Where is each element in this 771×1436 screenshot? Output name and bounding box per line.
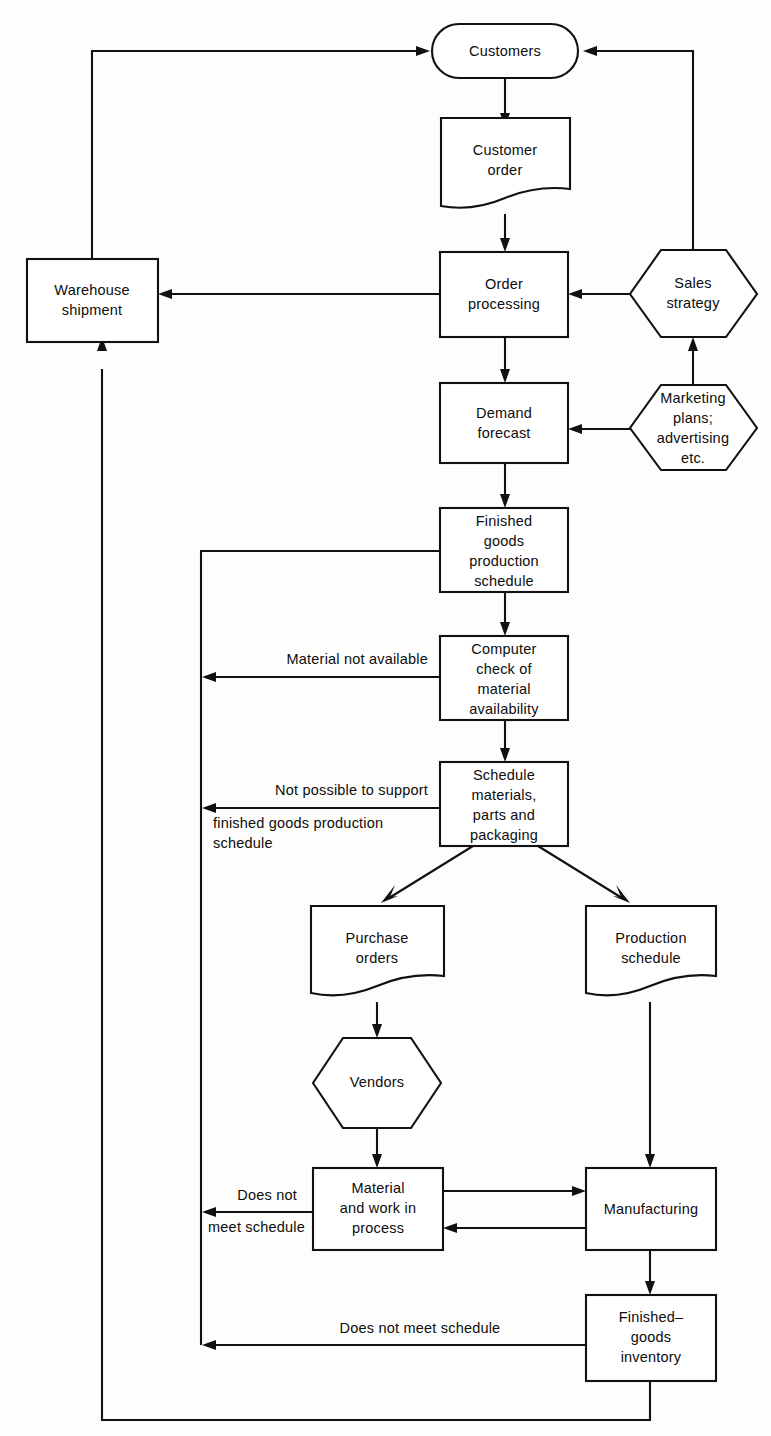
arrow-marketing-to-sales-strategy bbox=[688, 337, 698, 351]
fg-production-schedule-label-2: goods bbox=[484, 533, 525, 549]
edge-label-does-not-line2: meet schedule bbox=[208, 1219, 305, 1235]
fg-production-schedule-label-3: production bbox=[469, 553, 539, 569]
arrow-sales-strategy-to-customers bbox=[583, 46, 597, 56]
arrow-fg-inventory-does-not-meet-schedule bbox=[202, 1340, 216, 1350]
edge-label-not-possible-line1: Not possible to support bbox=[275, 782, 428, 798]
manufacturing-label: Manufacturing bbox=[604, 1201, 699, 1217]
marketing-plans-label-3: advertising bbox=[657, 430, 729, 446]
sales-strategy-label-1: Sales bbox=[674, 275, 711, 291]
edge-label-not-possible-line2: finished goods production bbox=[213, 815, 383, 831]
arrow-not-possible-to-support bbox=[202, 803, 216, 813]
node-finished-goods-production-schedule[interactable]: Finished goods production schedule bbox=[440, 508, 568, 592]
flowchart-svg: Customers Customer order Order processin… bbox=[0, 0, 771, 1436]
sales-strategy-label-2: strategy bbox=[666, 295, 720, 311]
node-computer-check[interactable]: Computer check of material availability bbox=[440, 636, 568, 720]
node-customers[interactable]: Customers bbox=[432, 24, 578, 78]
arrow-manufacturing-to-material-wip bbox=[443, 1223, 457, 1233]
node-material-work-in-process[interactable]: Material and work in process bbox=[313, 1168, 443, 1250]
customer-order-label-2: order bbox=[488, 162, 523, 178]
arrow-warehouse-to-customers bbox=[416, 46, 430, 56]
warehouse-shipment-label-1: Warehouse bbox=[54, 282, 129, 298]
arrow-order-processing-to-demand-forecast bbox=[500, 369, 510, 383]
arrow-customer-order-to-order-processing bbox=[500, 238, 510, 252]
arrow-production-schedule-to-manufacturing bbox=[645, 1154, 655, 1168]
material-wip-label-1: Material bbox=[351, 1180, 404, 1196]
fg-inventory-label-1: Finished– bbox=[619, 1309, 684, 1325]
schedule-materials-label-2: materials, bbox=[472, 787, 537, 803]
edge-schedule-materials-to-purchase-orders bbox=[389, 846, 473, 898]
demand-forecast-shape bbox=[440, 383, 568, 463]
marketing-plans-label-4: etc. bbox=[681, 450, 705, 466]
computer-check-label-2: check of bbox=[476, 661, 532, 677]
computer-check-label-3: material bbox=[477, 681, 530, 697]
arrow-marketing-to-demand-forecast bbox=[568, 424, 582, 434]
production-schedule-label-2: schedule bbox=[621, 950, 681, 966]
edge-label-not-possible-line3: schedule bbox=[213, 835, 273, 851]
purchase-orders-label-2: orders bbox=[356, 950, 398, 966]
marketing-plans-label-2: plans; bbox=[673, 410, 713, 426]
arrow-sales-strategy-to-order-processing bbox=[568, 289, 582, 299]
fg-inventory-label-3: inventory bbox=[621, 1349, 682, 1365]
node-production-schedule[interactable]: Production schedule bbox=[586, 906, 716, 995]
node-schedule-materials[interactable]: Schedule materials, parts and packaging bbox=[440, 762, 568, 846]
purchase-orders-label-1: Purchase bbox=[346, 930, 409, 946]
node-sales-strategy[interactable]: Sales strategy bbox=[630, 250, 757, 337]
demand-forecast-label-2: forecast bbox=[477, 425, 530, 441]
arrow-manufacturing-to-fg-inventory bbox=[645, 1281, 655, 1295]
order-processing-label-2: processing bbox=[468, 296, 540, 312]
material-wip-label-2: and work in bbox=[340, 1200, 416, 1216]
flowchart-canvas: Customers Customer order Order processin… bbox=[0, 0, 771, 1436]
node-marketing-plans[interactable]: Marketing plans; advertising etc. bbox=[630, 385, 757, 470]
node-order-processing[interactable]: Order processing bbox=[440, 252, 568, 337]
fg-production-schedule-label-1: Finished bbox=[476, 513, 532, 529]
schedule-materials-label-1: Schedule bbox=[473, 767, 535, 783]
arrow-computer-check-to-schedule-materials bbox=[500, 748, 510, 762]
edge-label-does-not-line1: Does not bbox=[237, 1187, 297, 1203]
order-processing-shape bbox=[440, 252, 568, 337]
arrow-demand-forecast-to-fg-schedule bbox=[500, 494, 510, 508]
schedule-materials-label-3: parts and bbox=[473, 807, 535, 823]
arrow-order-processing-to-warehouse bbox=[158, 289, 172, 299]
edge-label-does-not-meet-schedule: Does not meet schedule bbox=[340, 1320, 501, 1336]
schedule-materials-label-4: packaging bbox=[470, 827, 538, 843]
warehouse-shipment-label-2: shipment bbox=[62, 302, 122, 318]
node-purchase-orders[interactable]: Purchase orders bbox=[311, 906, 444, 995]
arrow-material-not-available bbox=[202, 672, 216, 682]
customers-label: Customers bbox=[469, 43, 541, 59]
production-schedule-label-1: Production bbox=[615, 930, 686, 946]
node-vendors[interactable]: Vendors bbox=[313, 1038, 441, 1128]
fg-inventory-label-2: goods bbox=[631, 1329, 672, 1345]
node-manufacturing[interactable]: Manufacturing bbox=[586, 1168, 716, 1250]
arrow-fg-schedule-to-computer-check bbox=[500, 622, 510, 636]
node-demand-forecast[interactable]: Demand forecast bbox=[440, 383, 568, 463]
fg-production-schedule-label-4: schedule bbox=[474, 573, 534, 589]
node-finished-goods-inventory[interactable]: Finished– goods inventory bbox=[586, 1295, 716, 1381]
arrow-purchase-orders-to-vendors bbox=[372, 1024, 382, 1038]
marketing-plans-label-1: Marketing bbox=[660, 390, 725, 406]
demand-forecast-label-1: Demand bbox=[476, 405, 532, 421]
order-processing-label-1: Order bbox=[485, 276, 523, 292]
sales-strategy-shape bbox=[630, 250, 757, 337]
computer-check-label-1: Computer bbox=[471, 641, 536, 657]
edge-schedule-materials-to-production-schedule bbox=[538, 846, 622, 898]
warehouse-shipment-shape bbox=[27, 259, 158, 342]
customer-order-label-1: Customer bbox=[473, 142, 537, 158]
arrow-material-wip-to-manufacturing bbox=[572, 1186, 586, 1196]
edge-label-material-not-available: Material not available bbox=[287, 651, 428, 667]
arrow-vendors-to-material-wip bbox=[372, 1154, 382, 1168]
computer-check-label-4: availability bbox=[469, 701, 539, 717]
material-wip-label-3: process bbox=[352, 1220, 404, 1236]
arrow-material-wip-does-not-meet-schedule bbox=[202, 1207, 216, 1217]
node-warehouse-shipment[interactable]: Warehouse shipment bbox=[27, 259, 158, 342]
edge-warehouse-to-customers bbox=[92, 51, 421, 259]
edge-sales-strategy-to-customers bbox=[592, 51, 693, 250]
node-customer-order[interactable]: Customer order bbox=[441, 118, 570, 208]
vendors-label: Vendors bbox=[350, 1074, 405, 1090]
